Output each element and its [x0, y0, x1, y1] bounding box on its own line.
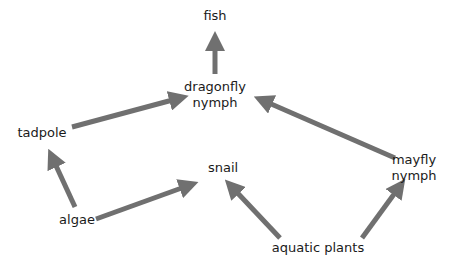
- node-snail: snail: [208, 160, 238, 176]
- node-label-line2: nymph: [184, 95, 246, 111]
- node-tadpole: tadpole: [17, 125, 66, 141]
- node-aquatic-plants: aquatic plants: [272, 240, 364, 256]
- food-web-diagram: fish dragonfly nymph tadpole snail mayfl…: [0, 0, 462, 272]
- node-label-line1: mayfly: [391, 152, 436, 168]
- node-label-line1: dragonfly: [184, 79, 246, 95]
- arrow-algae-to-snail: [96, 185, 190, 219]
- arrow-algae-to-tadpole: [52, 157, 75, 207]
- arrow-plants-to-snail: [231, 186, 280, 238]
- node-label: aquatic plants: [272, 240, 364, 255]
- arrow-tadpole-to-dragonfly: [72, 98, 180, 127]
- node-label: algae: [59, 212, 95, 227]
- edges-layer: [0, 0, 462, 272]
- node-fish: fish: [203, 8, 226, 24]
- node-label: fish: [203, 8, 226, 23]
- node-algae: algae: [59, 212, 95, 228]
- node-label-line2: nymph: [391, 168, 436, 184]
- node-label: snail: [208, 160, 238, 175]
- node-label: tadpole: [17, 125, 66, 140]
- node-dragonfly-nymph: dragonfly nymph: [184, 79, 246, 111]
- arrow-plants-to-mayfly: [362, 186, 400, 238]
- node-mayfly-nymph: mayfly nymph: [391, 152, 436, 184]
- arrow-mayfly-to-dragonfly: [262, 100, 395, 158]
